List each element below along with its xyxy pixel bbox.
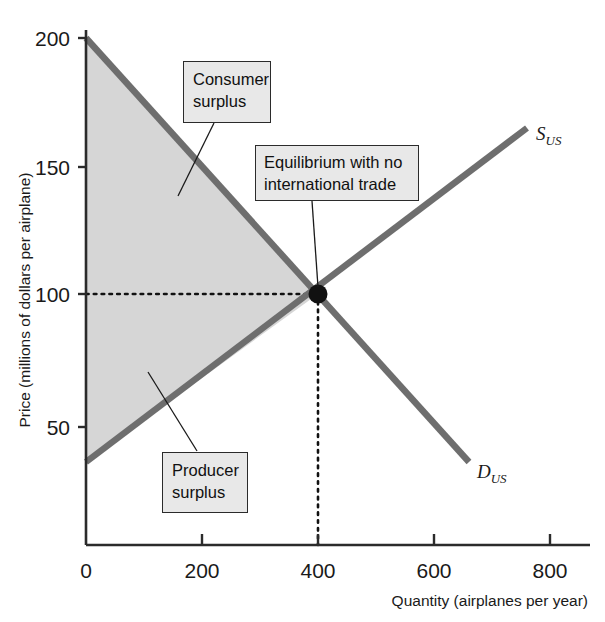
x-tick-label-0: 0 — [80, 559, 92, 582]
x-tick-label-400: 400 — [300, 559, 335, 582]
x-axis-title: Quantity (airplanes per year) — [392, 592, 588, 609]
y-tick-label-200: 200 — [35, 27, 70, 50]
chart-canvas: 200 150 100 50 0 200 400 600 800 Price (… — [0, 0, 605, 622]
y-axis-title: Price (millions of dollars per airplane) — [16, 173, 33, 428]
x-tick-label-200: 200 — [184, 559, 219, 582]
y-tick-label-50: 50 — [47, 416, 70, 439]
equilibrium-point-marker — [309, 285, 328, 304]
equilibrium-callout: Equilibrium with no international trade — [255, 145, 419, 201]
y-tick-label-100: 100 — [35, 283, 70, 306]
producer-surplus-callout: Producer surplus — [162, 452, 248, 513]
x-tick-label-800: 800 — [532, 559, 567, 582]
y-tick-label-150: 150 — [35, 156, 70, 179]
x-tick-label-600: 600 — [416, 559, 451, 582]
equilibrium-callout-leader — [312, 201, 318, 287]
supply-demand-chart: 200 150 100 50 0 200 400 600 800 Price (… — [0, 0, 605, 622]
consumer-surplus-callout: Consumer surplus — [183, 61, 271, 123]
demand-curve-label: DUS — [476, 461, 507, 486]
supply-curve-label: SUS — [536, 123, 562, 148]
